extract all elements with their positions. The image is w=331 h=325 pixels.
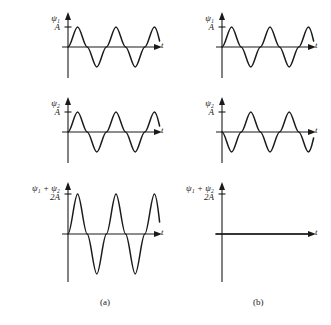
vertical-axis-arrow [65, 97, 71, 105]
psi1-a-t-label: t [161, 41, 164, 50]
vertical-axis-arrow [219, 97, 225, 105]
caption-b: (b) [253, 297, 264, 307]
panel-psi1-b [216, 12, 321, 80]
psi2-b-amplitude: A [182, 108, 214, 117]
vertical-axis-arrow [65, 182, 71, 190]
sum-b-amplitude: 2A [164, 193, 214, 202]
panel-psi2-a [62, 97, 167, 165]
psi2-a-t-label: t [161, 126, 164, 135]
psi1-b-amplitude: A [182, 23, 214, 32]
panel-psi2-b [216, 97, 321, 165]
vertical-axis-arrow [65, 12, 71, 20]
vertical-axis-arrow [219, 182, 225, 190]
psi2-b-t-label: t [315, 126, 318, 135]
psi1-a-y-label: ψ₁ A [28, 14, 60, 33]
psi1-a-amplitude: A [28, 23, 60, 32]
psi2-a-amplitude: A [28, 108, 60, 117]
sum-a-t-label: t [161, 228, 164, 237]
psi1-b-t-label: t [315, 41, 318, 50]
sum-b-t-label: t [315, 228, 318, 237]
panel-psi1-a [62, 12, 167, 80]
wave-interference-figure: ψ₁ A t ψ₂ A t ψ₁ + ψ₂ 2A t [0, 0, 331, 325]
vertical-axis-arrow [219, 12, 225, 20]
psi1-b-y-label: ψ₁ A [182, 14, 214, 33]
sum-a-amplitude: 2A [10, 193, 60, 202]
caption-a: (a) [100, 297, 110, 307]
panel-sum-b [216, 182, 321, 282]
psi2-a-y-label: ψ₂ A [28, 99, 60, 118]
panel-sum-a [62, 182, 167, 282]
sum-b-y-label: ψ₁ + ψ₂ 2A [164, 184, 214, 203]
sum-a-y-label: ψ₁ + ψ₂ 2A [10, 184, 60, 203]
psi2-b-y-label: ψ₂ A [182, 99, 214, 118]
